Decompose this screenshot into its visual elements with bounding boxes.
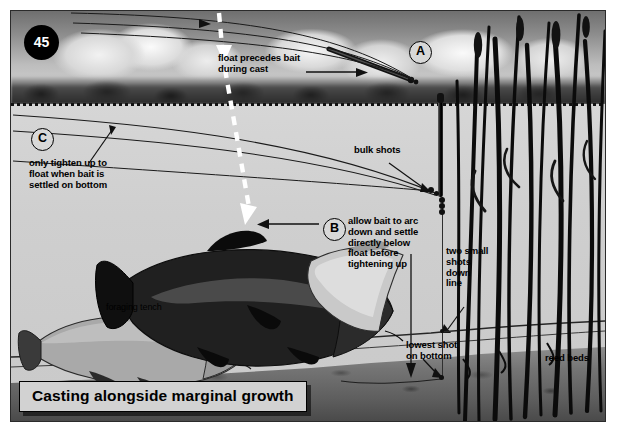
lowest-shot	[439, 375, 444, 380]
float-icon	[438, 99, 443, 197]
page-number-badge: 45	[24, 25, 59, 60]
label-line: during cast	[218, 64, 300, 75]
bulk-shot	[439, 209, 445, 215]
caption-banner: Casting alongside marginal growth	[19, 381, 307, 412]
label-bulk-shots: bulk shots	[354, 145, 401, 156]
bulk-shot	[434, 191, 439, 196]
float-tip-icon	[437, 93, 444, 103]
label-lowest-shot-on-bottom: lowest shot on bottom	[406, 340, 457, 362]
label-line: line	[446, 278, 488, 289]
label-reed-beds: reed beds	[545, 353, 589, 364]
label-two-small-shots-down-line: two small shots down line	[446, 246, 488, 289]
illustration-page: 45 A B C float precedes bait during cast…	[0, 0, 622, 440]
caption-title: Casting alongside marginal growth	[32, 387, 294, 404]
marker-a: A	[409, 41, 432, 64]
dropper-shot	[440, 329, 444, 333]
figure-frame: 45 A B C float precedes bait during cast…	[10, 10, 606, 422]
label-line: settled on bottom	[29, 180, 107, 191]
label-line: tightening up	[348, 259, 418, 270]
label-allow-bait-to-arc: allow bait to arc down and settle direct…	[348, 216, 418, 270]
label-line: on bottom	[406, 351, 457, 362]
label-only-tighten-up: only tighten up to float when bait is se…	[29, 158, 107, 190]
label-float-precedes-bait: float precedes bait during cast	[218, 53, 300, 75]
label-foraging-tench: foraging tench	[106, 302, 162, 312]
marker-c: C	[31, 128, 54, 151]
marker-b: B	[323, 218, 346, 241]
